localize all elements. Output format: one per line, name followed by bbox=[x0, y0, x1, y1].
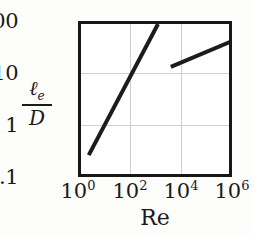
y-axis-tick-100: 100 bbox=[0, 11, 18, 32]
x-axis-tick-1e6: 106 bbox=[202, 180, 254, 202]
y-axis-tick-0.1: 0.1 bbox=[0, 167, 18, 188]
y-axis-title-numerator-subscript: e bbox=[38, 89, 45, 103]
y-axis-title: ℓe D bbox=[14, 78, 60, 128]
x-axis-tick-1e2-mantissa: 10 bbox=[112, 179, 139, 203]
series-line-laminar bbox=[89, 24, 158, 155]
x-axis-tick-1e6-exponent: 6 bbox=[241, 178, 249, 193]
y-axis-title-numerator-symbol: ℓ bbox=[29, 76, 37, 100]
data-series-layer bbox=[81, 24, 232, 177]
x-axis-tick-1e2-exponent: 2 bbox=[139, 178, 147, 193]
x-axis-tick-1e0-mantissa: 10 bbox=[60, 179, 87, 203]
y-axis-title-denominator: D bbox=[14, 108, 60, 128]
series-line-turbulent bbox=[171, 42, 230, 67]
x-axis-tick-1e4-exponent: 4 bbox=[190, 178, 198, 193]
x-axis-tick-1e0-exponent: 0 bbox=[87, 178, 95, 193]
x-axis-title: Re bbox=[78, 206, 232, 230]
x-axis-tick-1e4-mantissa: 10 bbox=[163, 179, 190, 203]
x-axis-tick-1e6-mantissa: 10 bbox=[214, 179, 241, 203]
x-axis-tick-1e0: 100 bbox=[48, 180, 108, 202]
entrance-length-chart: 100 10 1 0.1 ℓe D 100 102 104 106 Re bbox=[0, 0, 254, 238]
y-axis-title-numerator: ℓe bbox=[14, 78, 60, 103]
plot-area bbox=[78, 21, 232, 177]
